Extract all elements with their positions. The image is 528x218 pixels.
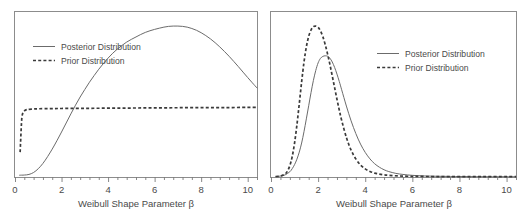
x-axis-tick-label: 10	[501, 184, 512, 195]
x-axis-tick-label: 6	[410, 184, 415, 195]
legend-label-posterior: Posterior Distribution	[405, 49, 485, 59]
chart-panel-right: 0246810 Posterior Distribution Prior Dis…	[264, 0, 528, 218]
figure-container: 0246810 Posterior Distribution Prior Dis…	[0, 0, 528, 218]
x-axis-tick-label: 6	[152, 184, 157, 195]
legend-label-posterior: Posterior Distribution	[61, 42, 141, 52]
x-axis-tick-label: 8	[199, 184, 204, 195]
x-axis-tick-label: 10	[242, 184, 253, 195]
x-axis-tick-label: 2	[315, 184, 320, 195]
x-axis-tick-label: 0	[12, 184, 17, 195]
x-axis-tick-label: 8	[457, 184, 462, 195]
legend-label-prior: Prior Distribution	[61, 56, 125, 66]
plot-frame-right	[271, 12, 517, 178]
plot-svg-right: 0246810 Posterior Distribution Prior Dis…	[264, 0, 528, 218]
legend-right: Posterior Distribution Prior Distributio…	[377, 49, 485, 73]
x-axis-tick-labels-left: 0246810	[12, 184, 253, 195]
chart-panel-left: 0246810 Posterior Distribution Prior Dis…	[0, 0, 264, 218]
legend-left: Posterior Distribution Prior Distributio…	[33, 42, 141, 66]
x-axis-tick-label: 4	[105, 184, 110, 195]
legend-entry-prior-left: Prior Distribution	[33, 56, 125, 66]
legend-label-prior: Prior Distribution	[405, 63, 469, 73]
x-axis-tick-label: 0	[268, 184, 273, 195]
series-line-prior-left	[20, 107, 257, 152]
series-line-posterior-right	[276, 56, 516, 177]
legend-entry-posterior-right: Posterior Distribution	[377, 49, 485, 59]
x-axis-tick-label: 2	[59, 184, 64, 195]
x-axis-tick-label: 4	[363, 184, 368, 195]
legend-entry-prior-right: Prior Distribution	[377, 63, 469, 73]
x-axis-tick-labels-right: 0246810	[268, 184, 512, 195]
x-axis-title-left: Weibull Shape Parameter β	[78, 198, 195, 209]
x-axis-title-right: Weibull Shape Parameter β	[336, 198, 453, 209]
plot-svg-left: 0246810 Posterior Distribution Prior Dis…	[0, 0, 264, 218]
legend-entry-posterior-left: Posterior Distribution	[33, 42, 141, 52]
